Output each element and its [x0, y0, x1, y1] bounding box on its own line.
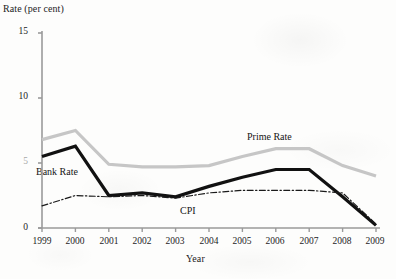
- series-line-cpi: [42, 190, 376, 224]
- plot-area: [0, 0, 396, 279]
- axes: [38, 31, 380, 232]
- series-lines: [42, 131, 376, 226]
- chart-figure: Rate (per cent) Year 15 10 5 0 1999 2000…: [0, 0, 396, 279]
